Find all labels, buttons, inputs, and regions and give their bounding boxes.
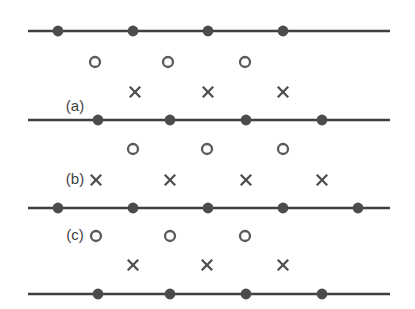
atom-dot bbox=[128, 26, 139, 37]
atom-dot bbox=[353, 203, 364, 214]
atom-dot bbox=[278, 26, 289, 37]
atom-dot bbox=[53, 26, 64, 37]
atom-dot bbox=[241, 115, 252, 126]
lattice-figure-canvas: (a)(b)(c) bbox=[0, 0, 415, 309]
atom-dot bbox=[53, 203, 64, 214]
lattice-figure: (a)(b)(c) bbox=[0, 0, 415, 309]
atom-dot bbox=[165, 115, 176, 126]
atom-dot bbox=[93, 289, 104, 300]
row-label-b: (b) bbox=[66, 170, 84, 187]
atom-dot bbox=[128, 203, 139, 214]
atom-dot bbox=[278, 203, 289, 214]
atom-dot bbox=[241, 289, 252, 300]
atom-dot bbox=[203, 203, 214, 214]
atom-dot bbox=[165, 289, 176, 300]
row-label-a: (a) bbox=[66, 97, 84, 114]
atom-dot bbox=[317, 289, 328, 300]
row-label-c: (c) bbox=[66, 226, 84, 243]
atom-dot bbox=[203, 26, 214, 37]
atom-dot bbox=[317, 115, 328, 126]
atom-dot bbox=[93, 115, 104, 126]
